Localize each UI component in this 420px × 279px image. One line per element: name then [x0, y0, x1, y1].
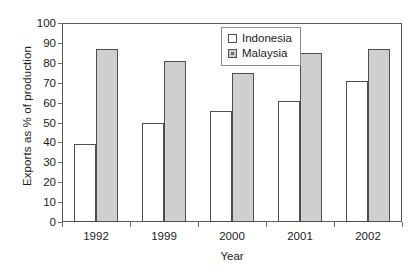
- x-axis-tick-mark: [334, 222, 335, 227]
- legend-item-label: Malaysia: [242, 47, 287, 60]
- y-axis-tick-label: 50: [30, 117, 56, 129]
- y-axis-tick-label: 30: [30, 156, 56, 168]
- x-axis-tick-mark: [62, 222, 63, 227]
- x-axis-tick-label: 2001: [266, 229, 334, 243]
- x-axis-tick-mark: [402, 222, 403, 227]
- x-axis-tick-marks: [62, 222, 402, 227]
- x-axis-tick-mark: [198, 222, 199, 227]
- legend-item-malaysia: Malaysia: [228, 46, 292, 61]
- bar-indonesia-2001: [278, 101, 300, 222]
- y-axis-tick-label: 20: [30, 176, 56, 188]
- x-axis-tick-label: 1992: [62, 229, 130, 243]
- chart-legend: IndonesiaMalaysia: [221, 27, 301, 66]
- bar-indonesia-1992: [74, 144, 96, 222]
- bar-malaysia-2000: [232, 73, 254, 222]
- x-axis-title: Year: [62, 250, 402, 262]
- bar-indonesia-2002: [346, 81, 368, 222]
- x-axis-tick-label: 2002: [334, 229, 402, 243]
- x-axis-tick-label: 1999: [130, 229, 198, 243]
- bar-malaysia-2002: [368, 49, 390, 222]
- open-square-swatch: [228, 34, 237, 43]
- y-axis-tick-label: 60: [30, 97, 56, 109]
- y-axis-tick-label: 0: [30, 216, 56, 228]
- bar-indonesia-2000: [210, 111, 232, 222]
- bar-group: [346, 23, 390, 222]
- legend-item-label: Indonesia: [242, 32, 292, 45]
- x-axis-tick-labels: 19921999200020012002: [62, 229, 402, 245]
- y-axis-tick-label: 100: [30, 17, 56, 29]
- x-axis-tick-mark: [130, 222, 131, 227]
- bar-group: [74, 23, 118, 222]
- y-axis-tick-label: 80: [30, 57, 56, 69]
- x-axis-tick-label: 2000: [198, 229, 266, 243]
- bar-malaysia-1992: [96, 49, 118, 222]
- y-axis-tick-label: 10: [30, 196, 56, 208]
- y-axis-tick-label: 70: [30, 77, 56, 89]
- bar-malaysia-2001: [300, 53, 322, 222]
- bar-chart: Exports as % of production 0102030405060…: [0, 0, 420, 279]
- filled-square-swatch: [228, 49, 237, 58]
- bar-group: [142, 23, 186, 222]
- x-axis-tick-mark: [266, 222, 267, 227]
- bar-indonesia-1999: [142, 123, 164, 223]
- bar-malaysia-1999: [164, 61, 186, 222]
- y-axis-tick-label: 90: [30, 37, 56, 49]
- legend-item-indonesia: Indonesia: [228, 31, 292, 46]
- y-axis-tick-labels: 0102030405060708090100: [30, 16, 56, 230]
- y-axis-tick-label: 40: [30, 136, 56, 148]
